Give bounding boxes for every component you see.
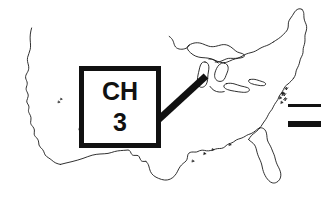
thick-rule xyxy=(288,121,321,127)
callout-line-number: 3 xyxy=(113,110,127,135)
callout-line-ch: CH xyxy=(102,79,138,104)
west-coast-path xyxy=(26,28,61,164)
lake-huron-path xyxy=(215,63,229,82)
lake-erie-path xyxy=(224,83,250,92)
northeast-border-path xyxy=(274,9,302,42)
southwest-border-path xyxy=(60,150,146,164)
gulf-coast-path xyxy=(146,128,259,180)
michigan-peninsula-path xyxy=(209,59,224,92)
lake-superior-path xyxy=(187,43,244,63)
chesapeake-detail-path xyxy=(281,87,288,101)
channel-callout-box: CH 3 xyxy=(79,66,161,148)
thin-rule xyxy=(288,104,321,107)
figure-root: CH 3 xyxy=(0,0,321,211)
florida-path xyxy=(249,128,281,183)
lake-michigan-path xyxy=(197,62,209,87)
